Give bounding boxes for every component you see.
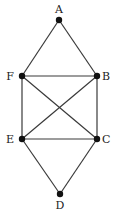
graph-diagram: AFBECD bbox=[0, 0, 115, 217]
node-label-c: C bbox=[102, 133, 110, 146]
edge-c-d bbox=[60, 139, 97, 194]
node-label-b: B bbox=[102, 70, 110, 83]
node-label-e: E bbox=[6, 133, 14, 146]
edge-a-f bbox=[22, 20, 59, 76]
node-label-f: F bbox=[6, 70, 14, 83]
node-f bbox=[19, 73, 25, 79]
node-e bbox=[19, 136, 25, 142]
node-c bbox=[94, 136, 100, 142]
node-label-a: A bbox=[54, 3, 64, 16]
node-b bbox=[94, 73, 100, 79]
node-label-d: D bbox=[56, 199, 65, 212]
node-d bbox=[57, 191, 63, 197]
edges-group bbox=[22, 20, 97, 194]
edge-e-d bbox=[22, 139, 60, 194]
edge-a-b bbox=[59, 20, 97, 76]
node-a bbox=[56, 17, 62, 23]
